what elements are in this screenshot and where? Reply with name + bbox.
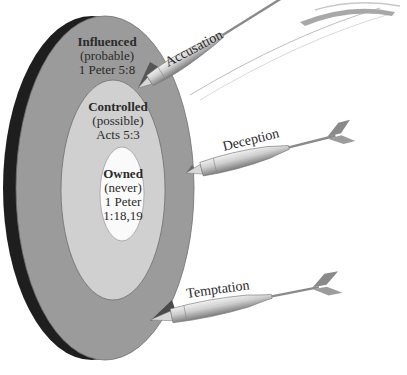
ring-middle-likelihood: (possible) — [92, 113, 143, 128]
motion-trail — [200, 14, 390, 100]
ring-outer-reference: 1 Peter 5:8 — [79, 62, 135, 77]
ring-outer-likelihood: (probable) — [80, 48, 134, 63]
dart-label-accusation: Accusation — [162, 27, 225, 70]
ring-middle-title: Controlled — [88, 99, 148, 114]
target-diagram: Influenced (probable) 1 Peter 5:8 Contro… — [0, 0, 407, 375]
label-controlled: Controlled (possible) Acts 5:3 — [88, 99, 148, 142]
dart-deception: Deception — [183, 120, 355, 183]
ring-inner-title: Owned — [103, 166, 144, 181]
label-owned: Owned (never) 1 Peter 1:18,19 — [103, 166, 144, 223]
motion-trail — [190, 8, 380, 95]
ring-outer-title: Influenced — [77, 34, 137, 49]
label-influenced: Influenced (probable) 1 Peter 5:8 — [77, 34, 137, 77]
ring-inner-reference-1: 1 Peter — [105, 194, 142, 209]
ring-inner-reference-2: 1:18,19 — [103, 208, 142, 223]
ring-middle-reference: Acts 5:3 — [96, 127, 140, 142]
motion-trail-swoosh — [300, 9, 395, 26]
ring-inner-likelihood: (never) — [104, 180, 142, 195]
